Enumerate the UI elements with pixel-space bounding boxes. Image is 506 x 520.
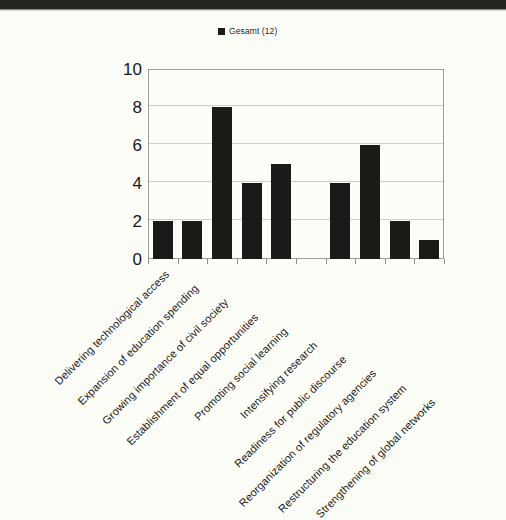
x-axis-category-label: Expansion of education spending <box>76 282 201 407</box>
bar <box>419 240 439 259</box>
x-axis-tick <box>414 259 415 264</box>
y-axis-tick-label: 8 <box>100 99 142 116</box>
x-axis-tick <box>178 259 179 264</box>
x-axis-category-label: Delivering technological access <box>52 268 171 387</box>
y-axis-tick-label: 0 <box>100 251 142 268</box>
x-axis-category-label: Restructuring the education system <box>275 382 408 515</box>
x-axis-tick <box>355 259 356 264</box>
x-axis-tick <box>266 259 267 264</box>
x-axis-tick <box>296 259 297 264</box>
x-axis-tick <box>326 259 327 264</box>
x-axis-category-label: Readiness for public discourse <box>232 353 349 470</box>
x-axis-category-label: Strengthening of global networks <box>314 396 438 520</box>
legend-entry-label: Gesamt (12) <box>229 26 277 36</box>
x-axis-category-label: Intensifying research <box>238 339 320 421</box>
bar <box>242 183 262 259</box>
gridline <box>149 67 443 68</box>
x-axis-tick <box>148 259 149 264</box>
y-axis: 0246810 <box>100 60 142 268</box>
y-axis-tick-label: 4 <box>100 175 142 192</box>
y-axis-tick-label: 2 <box>100 213 142 230</box>
x-axis-tick <box>444 259 445 264</box>
bar-series-gesamt <box>148 69 444 259</box>
bar <box>271 164 291 259</box>
bar <box>212 107 232 259</box>
x-axis-tick <box>385 259 386 264</box>
bar <box>330 183 350 259</box>
square-marker-icon <box>218 28 225 35</box>
x-axis-category-label: Growing importance of civil society <box>100 296 231 427</box>
x-axis-tick <box>207 259 208 264</box>
chart-legend: Gesamt (12) <box>218 26 277 36</box>
bar <box>390 221 410 259</box>
x-axis-category-label: Promoting social learning <box>192 325 290 423</box>
y-axis-tick-label: 6 <box>100 137 142 154</box>
y-axis-tick-label: 10 <box>100 61 142 78</box>
bar <box>360 145 380 259</box>
x-axis-category-label: Reorganization of regulatory agencies <box>236 367 378 509</box>
bar <box>153 221 173 259</box>
x-axis-tick <box>237 259 238 264</box>
bar <box>182 221 202 259</box>
x-axis-category-label: Establishment of equal opportunities <box>124 311 260 447</box>
x-axis-ticks <box>148 259 444 265</box>
